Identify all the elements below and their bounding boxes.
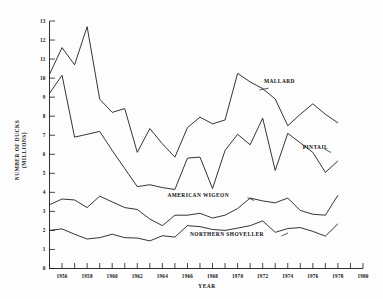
x-tick-label-1978: 1978: [332, 273, 343, 279]
x-tick-label-1956: 1956: [56, 273, 67, 279]
data-series-group: [50, 27, 338, 241]
y-tick-label-12: 12: [40, 37, 46, 43]
series-inline-labels: MALLARDPINTAILAMERICAN WIGEONNORTHERN SH…: [167, 78, 328, 237]
x-tick-label-1962: 1962: [132, 273, 143, 279]
x-tick-label-1974: 1974: [282, 273, 293, 279]
y-tick-label-3: 3: [43, 208, 46, 214]
x-tick-label-1958: 1958: [82, 273, 93, 279]
x-tick-label-1972: 1972: [257, 273, 268, 279]
y-tick-label-2: 2: [43, 227, 46, 233]
chart-figure: 012345678910111213 195619581960196219641…: [0, 0, 383, 299]
y-tick-label-6: 6: [43, 151, 46, 157]
y-axis-title-line1: NUMBER OF DUCKS: [14, 120, 20, 180]
x-axis-tick-labels: 1956195819601962196419661968197019721974…: [56, 273, 368, 279]
x-tick-label-1976: 1976: [307, 273, 318, 279]
y-tick-label-7: 7: [43, 132, 46, 138]
x-tick-label-1960: 1960: [107, 273, 118, 279]
y-tick-label-0: 0: [43, 265, 46, 271]
series-label-american-wigeon: AMERICAN WIGEON: [167, 192, 229, 198]
y-tick-label-11: 11: [40, 56, 46, 62]
y-tick-label-4: 4: [43, 189, 46, 195]
x-tick-label-1980: 1980: [357, 273, 368, 279]
series-label-northern-shoveller: NORTHERN SHOVELLER: [190, 231, 264, 237]
series-line-american-wigeon: [50, 195, 338, 225]
x-axis-ticks: [50, 263, 364, 269]
y-tick-label-1: 1: [43, 246, 46, 252]
series-line-mallard: [50, 27, 338, 157]
y-axis-title-line2: (MILLIONS): [21, 132, 28, 168]
duck-population-line-chart: 012345678910111213 195619581960196219641…: [0, 0, 383, 299]
x-tick-label-1966: 1966: [182, 273, 193, 279]
y-tick-label-5: 5: [43, 170, 46, 176]
series-line-pintail: [50, 75, 338, 189]
x-tick-label-1968: 1968: [207, 273, 218, 279]
series-label-pintail: PINTAIL: [303, 144, 328, 150]
y-tick-label-8: 8: [43, 113, 46, 119]
y-axis-tick-labels: 012345678910111213: [40, 18, 46, 272]
y-tick-label-10: 10: [40, 75, 46, 81]
x-axis-title: YEAR: [198, 283, 215, 289]
x-tick-label-1964: 1964: [157, 273, 168, 279]
shoveller-leader-line: [282, 233, 289, 236]
x-tick-label-1970: 1970: [232, 273, 243, 279]
y-axis-ticks: [50, 21, 56, 269]
y-tick-label-9: 9: [43, 94, 46, 100]
y-tick-label-13: 13: [40, 18, 46, 24]
series-label-mallard: MALLARD: [264, 78, 295, 84]
